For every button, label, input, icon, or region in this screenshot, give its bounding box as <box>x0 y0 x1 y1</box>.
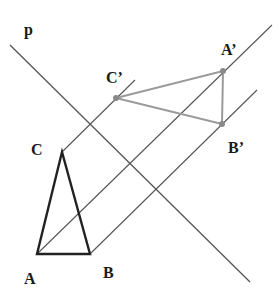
triangle-abc <box>37 152 90 254</box>
label-c-prime: C’ <box>106 69 123 86</box>
point-a-prime <box>220 68 226 74</box>
label-c: C <box>31 141 43 158</box>
label-b: B <box>103 264 114 281</box>
label-a: A <box>24 270 36 287</box>
line-through-b <box>90 90 257 254</box>
label-p: p <box>24 21 33 39</box>
diagram-canvas: p C A B C’ A’ B’ <box>0 0 279 302</box>
label-a-prime: A’ <box>221 41 237 58</box>
line-through-c <box>62 80 135 152</box>
point-b-prime <box>219 121 225 127</box>
point-c-prime <box>113 95 119 101</box>
triangle-a-prime-b-prime-c-prime <box>116 71 223 124</box>
label-b-prime: B’ <box>228 139 244 156</box>
